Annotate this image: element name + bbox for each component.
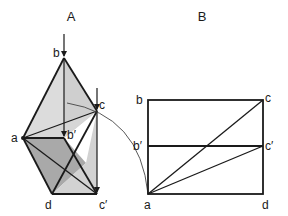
label-b: b bbox=[136, 93, 143, 107]
label-a: a bbox=[144, 198, 151, 212]
label-a: a bbox=[11, 131, 18, 145]
point-a bbox=[21, 136, 25, 140]
diag-a-c bbox=[148, 100, 263, 194]
label-c-prime: c′ bbox=[99, 198, 108, 212]
label-b: b bbox=[53, 46, 60, 60]
label-c: c bbox=[265, 91, 271, 105]
label-c: c bbox=[99, 98, 105, 112]
label-b-prime: b′ bbox=[133, 139, 143, 153]
diagram-canvas: A b c a b′ d c′ B bbox=[0, 0, 288, 216]
figure-a-title: A bbox=[67, 9, 76, 24]
figure-b-title: B bbox=[198, 9, 207, 24]
figure-b: B b c b′ c′ a d bbox=[133, 9, 274, 212]
label-d: d bbox=[45, 198, 52, 212]
label-d: d bbox=[262, 198, 269, 212]
diag-a-cprime bbox=[148, 146, 263, 194]
label-b-prime: b′ bbox=[67, 128, 77, 142]
label-c-prime: c′ bbox=[265, 139, 274, 153]
